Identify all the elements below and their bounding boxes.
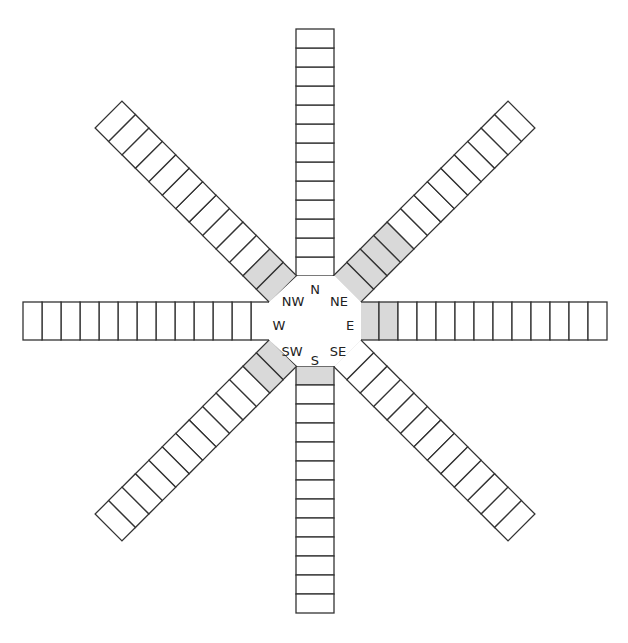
label-nw: NW — [282, 294, 305, 309]
cell-e-11 — [550, 302, 569, 340]
label-s: S — [311, 353, 319, 368]
cell-n-13 — [296, 29, 334, 48]
cell-n-7 — [296, 143, 334, 162]
cell-s-7 — [296, 480, 334, 499]
cell-s-1 — [296, 366, 334, 385]
cell-n-6 — [296, 162, 334, 181]
cell-w-8 — [118, 302, 137, 340]
compass-diagram: NNEESESSWWNW — [0, 0, 628, 643]
cell-e-7 — [474, 302, 493, 340]
cell-w-9 — [99, 302, 118, 340]
cell-s-13 — [296, 594, 334, 613]
cell-n-1 — [296, 257, 334, 276]
cell-s-11 — [296, 556, 334, 575]
cell-n-4 — [296, 200, 334, 219]
cell-n-9 — [296, 105, 334, 124]
cell-s-10 — [296, 537, 334, 556]
cell-n-3 — [296, 219, 334, 238]
label-se: SE — [330, 344, 346, 359]
cell-w-4 — [194, 302, 213, 340]
cell-n-10 — [296, 86, 334, 105]
cell-e-1 — [360, 302, 379, 340]
cell-w-2 — [232, 302, 251, 340]
cell-e-12 — [569, 302, 588, 340]
cell-n-8 — [296, 124, 334, 143]
cell-e-3 — [398, 302, 417, 340]
cell-n-11 — [296, 67, 334, 86]
cell-w-11 — [61, 302, 80, 340]
arm-n — [296, 29, 334, 276]
cell-n-5 — [296, 181, 334, 200]
cell-w-1 — [251, 302, 270, 340]
cell-s-9 — [296, 518, 334, 537]
cell-w-5 — [175, 302, 194, 340]
arm-s — [296, 366, 334, 613]
cell-e-4 — [417, 302, 436, 340]
cell-e-2 — [379, 302, 398, 340]
label-sw: SW — [281, 344, 302, 359]
cell-n-12 — [296, 48, 334, 67]
cell-w-10 — [80, 302, 99, 340]
compass-svg: NNEESESSWWNW — [0, 0, 628, 643]
cell-e-5 — [436, 302, 455, 340]
cell-w-7 — [137, 302, 156, 340]
cell-e-10 — [531, 302, 550, 340]
cell-e-13 — [588, 302, 607, 340]
arm-ne — [333, 101, 535, 303]
label-w: W — [273, 318, 286, 333]
arm-sw — [95, 339, 297, 541]
arm-e — [360, 302, 607, 340]
cell-s-8 — [296, 499, 334, 518]
cell-w-13 — [23, 302, 42, 340]
arm-nw — [95, 101, 297, 303]
cell-w-6 — [156, 302, 175, 340]
cell-n-2 — [296, 238, 334, 257]
cell-w-3 — [213, 302, 232, 340]
cell-s-5 — [296, 442, 334, 461]
cell-s-6 — [296, 461, 334, 480]
cell-w-12 — [42, 302, 61, 340]
label-e: E — [346, 318, 354, 333]
cell-s-3 — [296, 404, 334, 423]
arm-se — [333, 339, 535, 541]
cell-e-8 — [493, 302, 512, 340]
arm-w — [23, 302, 270, 340]
cell-s-12 — [296, 575, 334, 594]
cell-s-2 — [296, 385, 334, 404]
label-ne: NE — [330, 294, 348, 309]
cell-e-9 — [512, 302, 531, 340]
label-n: N — [310, 282, 320, 297]
cell-s-4 — [296, 423, 334, 442]
cell-e-6 — [455, 302, 474, 340]
